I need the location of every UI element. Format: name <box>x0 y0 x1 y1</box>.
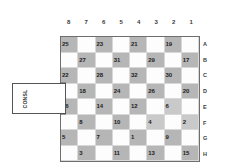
board-cell-F4[interactable] <box>130 115 147 131</box>
board-cell-D6[interactable] <box>96 84 113 100</box>
board-cell-A3[interactable] <box>147 37 164 53</box>
board-cell-B2[interactable] <box>165 53 182 69</box>
board-cell-G8[interactable]: 5 <box>61 130 78 146</box>
column-header-row: 87654321 <box>60 16 200 28</box>
board-cell-E6[interactable]: 14 <box>96 99 113 115</box>
board-cell-G1[interactable] <box>182 130 199 146</box>
board-cell-D3[interactable]: 26 <box>147 84 164 100</box>
cell-number: 30 <box>166 72 172 78</box>
board-cell-E1[interactable] <box>182 99 199 115</box>
cell-number: 4 <box>148 119 151 125</box>
console-callout-label: CONSL <box>22 89 28 108</box>
board-cell-F2[interactable] <box>165 115 182 131</box>
row-label-G: G <box>203 131 217 147</box>
column-header-2: 2 <box>165 16 183 28</box>
board-cell-G4[interactable]: 1 <box>130 130 147 146</box>
console-callout-box: CONSL <box>12 83 66 114</box>
board-cell-E2[interactable]: 6 <box>165 99 182 115</box>
board-cell-G5[interactable] <box>113 130 130 146</box>
board-cell-G2[interactable]: 9 <box>165 130 182 146</box>
board-cell-C8[interactable]: 22 <box>61 68 78 84</box>
board-cell-B8[interactable] <box>61 53 78 69</box>
cell-number: 8 <box>79 119 82 125</box>
column-header-1: 1 <box>183 16 201 28</box>
board-cell-H5[interactable]: 11 <box>113 146 130 162</box>
cell-number: 5 <box>62 134 65 140</box>
cell-number: 27 <box>79 57 85 63</box>
row-label-F: F <box>203 115 217 131</box>
board-cell-B5[interactable]: 31 <box>113 53 130 69</box>
board-cell-E5[interactable] <box>113 99 130 115</box>
cell-number: 13 <box>148 150 154 156</box>
board-cell-G6[interactable]: 7 <box>96 130 113 146</box>
board-cell-H8[interactable] <box>61 146 78 162</box>
board-cell-C1[interactable] <box>182 68 199 84</box>
cell-number: 17 <box>183 57 189 63</box>
board-cell-F3[interactable]: 4 <box>147 115 164 131</box>
board-cell-G3[interactable] <box>147 130 164 146</box>
cell-number: 19 <box>166 41 172 47</box>
column-header-4: 4 <box>130 16 148 28</box>
board-cell-C5[interactable] <box>113 68 130 84</box>
cell-number: 1 <box>131 134 134 140</box>
cell-number: 2 <box>183 119 186 125</box>
row-label-B: B <box>203 52 217 68</box>
board-cell-E3[interactable] <box>147 99 164 115</box>
board-cell-H7[interactable]: 3 <box>78 146 95 162</box>
board-cell-D1[interactable]: 20 <box>182 84 199 100</box>
cell-number: 11 <box>114 150 120 156</box>
board-cell-F5[interactable]: 10 <box>113 115 130 131</box>
board-cell-B7[interactable]: 27 <box>78 53 95 69</box>
board-cell-C6[interactable]: 28 <box>96 68 113 84</box>
row-label-column: ABCDEFGH <box>203 36 217 162</box>
board-cell-B6[interactable] <box>96 53 113 69</box>
column-header-8: 8 <box>60 16 78 28</box>
board-cell-H4[interactable] <box>130 146 147 162</box>
board-cell-H2[interactable] <box>165 146 182 162</box>
board-cell-D7[interactable]: 18 <box>78 84 95 100</box>
board-cell-C2[interactable]: 30 <box>165 68 182 84</box>
board-cell-B4[interactable] <box>130 53 147 69</box>
cell-number: 10 <box>114 119 120 125</box>
board-cell-D4[interactable] <box>130 84 147 100</box>
cell-number: 29 <box>148 57 154 63</box>
board-cell-E4[interactable]: 12 <box>130 99 147 115</box>
board-cell-G7[interactable] <box>78 130 95 146</box>
cell-number: 31 <box>114 57 120 63</box>
board-cell-F1[interactable]: 2 <box>182 115 199 131</box>
cell-number: 3 <box>79 150 82 156</box>
row-label-A: A <box>203 36 217 52</box>
board-cell-C4[interactable]: 32 <box>130 68 147 84</box>
board-cell-B3[interactable]: 29 <box>147 53 164 69</box>
board-cell-H6[interactable] <box>96 146 113 162</box>
board-cell-D2[interactable] <box>165 84 182 100</box>
board-cell-C3[interactable] <box>147 68 164 84</box>
board-cell-C7[interactable] <box>78 68 95 84</box>
cell-number: 6 <box>166 103 169 109</box>
cell-number: 12 <box>131 103 137 109</box>
cell-number: 15 <box>183 150 189 156</box>
board-cell-A8[interactable]: 25 <box>61 37 78 53</box>
board-cell-A2[interactable]: 19 <box>165 37 182 53</box>
cell-number: 21 <box>131 41 137 47</box>
cell-number: 7 <box>97 134 100 140</box>
board-cell-F6[interactable] <box>96 115 113 131</box>
board-cell-B1[interactable]: 17 <box>182 53 199 69</box>
board-cell-F7[interactable]: 8 <box>78 115 95 131</box>
board-cell-A5[interactable] <box>113 37 130 53</box>
board-cell-H3[interactable]: 13 <box>147 146 164 162</box>
board-cell-F8[interactable] <box>61 115 78 131</box>
board-cell-A7[interactable] <box>78 37 95 53</box>
board-cell-D5[interactable]: 24 <box>113 84 130 100</box>
row-label-C: C <box>203 68 217 84</box>
board-cell-A1[interactable] <box>182 37 199 53</box>
cell-number: 20 <box>183 88 189 94</box>
cell-number: 25 <box>62 41 68 47</box>
row-label-H: H <box>203 146 217 162</box>
board-cell-A6[interactable]: 23 <box>96 37 113 53</box>
cell-number: 18 <box>79 88 85 94</box>
cell-number: 22 <box>62 72 68 78</box>
board-cell-A4[interactable]: 21 <box>130 37 147 53</box>
board-cell-E7[interactable] <box>78 99 95 115</box>
board-cell-H1[interactable]: 15 <box>182 146 199 162</box>
